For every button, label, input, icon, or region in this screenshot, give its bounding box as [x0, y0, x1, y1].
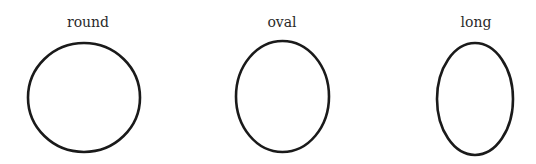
round-shape: [28, 43, 140, 152]
shape-comparison-diagram: round oval long: [0, 0, 536, 164]
oval-label: oval: [267, 15, 296, 29]
long-shape: [437, 43, 513, 155]
long-label: long: [461, 15, 492, 29]
round-label: round: [67, 15, 109, 29]
oval-shape: [236, 41, 329, 152]
